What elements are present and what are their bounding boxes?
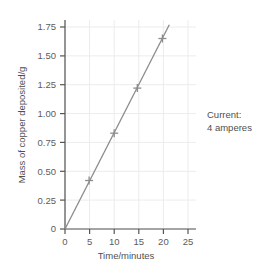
x-tick-label: 5 [87,236,92,247]
y-tick-label: 0.50 [38,166,57,177]
y-axis-ticks [60,27,65,229]
y-tick-label: 1.00 [38,108,57,119]
axis-lines [65,20,196,229]
y-tick-label: 0.25 [38,195,57,206]
x-tick-label: 15 [134,236,145,247]
x-axis-tick-labels: 0 5 10 15 20 25 [62,236,193,247]
data-point [110,129,118,137]
annotation-line-2: 4 amperes [207,121,252,134]
data-point [158,35,166,43]
grid-horizontal [65,27,196,229]
chart-figure: 0 0.25 0.50 0.75 1.00 1.25 1.50 1.75 0 5… [0,0,269,268]
data-point [133,84,141,92]
current-annotation: Current: 4 amperes [207,108,252,134]
x-axis-ticks [65,229,188,234]
x-axis-title: Time/minutes [98,250,155,261]
y-tick-label: 1.50 [38,50,57,61]
x-tick-label: 10 [109,236,120,247]
y-tick-label: 0.75 [38,137,57,148]
y-tick-label: 1.25 [38,79,57,90]
mass-vs-time-line-chart: 0 0.25 0.50 0.75 1.00 1.25 1.50 1.75 0 5… [0,0,269,268]
annotation-line-1: Current: [207,108,252,121]
y-axis-title: Mass of copper deposited/g [16,67,27,184]
grid-vertical [65,20,188,229]
y-axis-tick-labels: 0 0.25 0.50 0.75 1.00 1.25 1.50 1.75 [38,21,57,234]
x-tick-label: 0 [62,236,67,247]
y-tick-label: 0 [51,223,56,234]
x-tick-label: 20 [158,236,169,247]
x-tick-label: 25 [183,236,194,247]
y-tick-label: 1.75 [38,21,57,32]
